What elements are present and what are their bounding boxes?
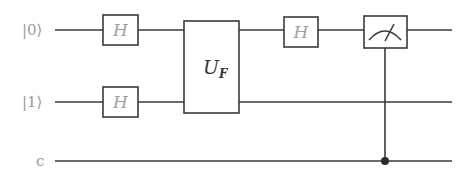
quantum-circuit-diagram: |0⟩ |1⟩ c H H UF H [0,0,475,174]
gate-label: H [112,20,129,40]
measurement-gate [364,16,407,48]
gate-label: H [293,22,310,42]
wire-label-q0: |0⟩ [22,21,42,39]
oracle-gate-uf: UF [184,21,239,113]
wire-label-q1: |1⟩ [22,93,42,111]
hadamard-gate-q1: H [103,87,138,117]
control-dot [381,157,389,165]
wire-label-c: c [36,152,44,170]
hadamard-gate-q0-1: H [103,15,138,45]
hadamard-gate-q0-2: H [284,17,318,47]
gate-label: H [112,92,129,112]
